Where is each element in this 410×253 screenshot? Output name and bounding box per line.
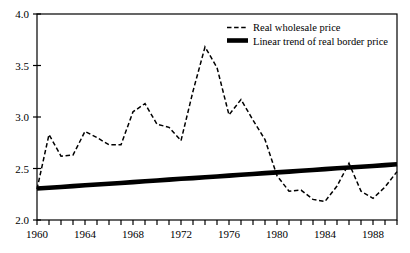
legend-label-real-wholesale-price: Real wholesale price <box>253 22 341 33</box>
x-tick-label: 1976 <box>218 228 241 240</box>
legend-entry-real-wholesale-price: Real wholesale price <box>227 22 341 33</box>
chart-legend: Real wholesale price Linear trend of rea… <box>227 22 388 47</box>
x-tick-label: 1964 <box>74 228 97 240</box>
x-tick-label: 1988 <box>362 228 385 240</box>
y-tick-label: 2.0 <box>15 214 29 226</box>
y-tick-label: 3.0 <box>15 111 29 123</box>
y-tick-label: 2.5 <box>15 163 29 175</box>
series-linear-trend-of-real-border-price <box>37 164 397 188</box>
legend-entry-linear-trend-of-real-border-price: Linear trend of real border price <box>227 36 388 47</box>
legend-label-linear-trend-of-real-border-price: Linear trend of real border price <box>253 36 388 47</box>
x-axis: 19601964196819721976198019841988 <box>26 220 397 240</box>
x-tick-label: 1968 <box>122 228 145 240</box>
chart-figure: 2.02.53.03.54.0 196019641968197219761980… <box>0 0 410 253</box>
series-layer <box>37 47 397 202</box>
y-tick-label: 3.5 <box>15 60 29 72</box>
x-tick-label: 1984 <box>314 228 337 240</box>
x-tick-label: 1972 <box>170 228 192 240</box>
y-tick-label: 4.0 <box>15 8 29 20</box>
line-chart: 2.02.53.03.54.0 196019641968197219761980… <box>0 0 410 253</box>
x-tick-label: 1960 <box>26 228 49 240</box>
x-tick-label: 1980 <box>266 228 289 240</box>
